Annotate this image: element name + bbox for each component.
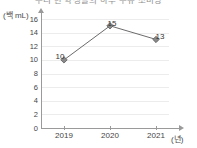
series-line bbox=[64, 26, 156, 60]
point-value-label: 10 bbox=[47, 52, 73, 61]
point-value-label: 15 bbox=[99, 19, 125, 28]
point-value-label: 13 bbox=[147, 32, 173, 41]
series-markers bbox=[61, 23, 159, 63]
